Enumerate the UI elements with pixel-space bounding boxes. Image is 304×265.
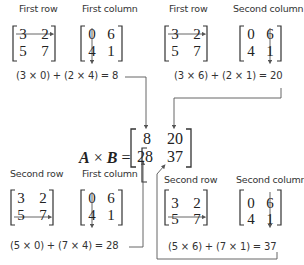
result-label: A × B =	[79, 149, 130, 167]
matrix-a-cell: 3	[14, 191, 28, 206]
result-cell: 8	[136, 131, 158, 147]
matrix-a-cell: 3	[168, 196, 182, 211]
matrix-b-cell: 6	[104, 191, 118, 206]
row-label: Second row	[10, 168, 63, 179]
matrix-a-cell: 5	[14, 208, 28, 223]
matrix-a-cell: 7	[38, 44, 52, 59]
matrix-b-cell: 1	[263, 212, 277, 227]
matrix-b-cell: 6	[263, 27, 277, 42]
result-cell: 37	[164, 149, 186, 165]
equation: (3 × 0) + (2 × 4) = 8	[16, 70, 118, 81]
matrix-a-cell: 5	[16, 44, 30, 59]
equation: (5 × 0) + (7 × 4) = 28	[10, 240, 118, 251]
matrix-b-cell: 4	[85, 44, 99, 59]
matrix-a-cell: 2	[38, 27, 52, 42]
matrix-a-cell: 3	[168, 27, 182, 42]
result-cell: 28	[134, 149, 156, 165]
equation: (5 × 6) + (7 × 1) = 37	[168, 241, 276, 252]
matrix-b-cell: 0	[85, 191, 99, 206]
matrix-b-cell: 6	[104, 27, 118, 42]
matrix-multiplication-diagram: First row First column 3 2 5 7 0 6 4 1 (…	[0, 0, 304, 265]
matrix-a-cell: 7	[36, 208, 50, 223]
matrix-b-cell: 4	[85, 208, 99, 223]
matrix-b-cell: 4	[244, 44, 258, 59]
column-label: Second column	[236, 174, 304, 185]
row-label: Second row	[164, 174, 217, 185]
matrix-a-cell: 5	[168, 212, 182, 227]
column-label: First column	[82, 168, 138, 179]
matrix-a-cell: 3	[16, 27, 30, 42]
matrix-a-cell: 7	[190, 44, 204, 59]
column-label: First column	[82, 3, 138, 14]
matrix-a-cell: 2	[190, 27, 204, 42]
matrix-b-cell: 1	[104, 44, 118, 59]
matrix-b-cell: 1	[263, 44, 277, 59]
matrix-b-cell: 4	[244, 212, 258, 227]
row-label: First row	[19, 3, 58, 14]
matrix-b-cell: 0	[244, 27, 258, 42]
matrix-a-cell: 2	[190, 196, 204, 211]
matrix-a-cell: 2	[36, 191, 50, 206]
equals-symbol: =	[121, 149, 130, 166]
matrix-b-cell: 6	[263, 196, 277, 211]
matrix-b-cell: 0	[244, 196, 258, 211]
matrix-b-cell: 0	[85, 27, 99, 42]
matrix-b-cell: 1	[104, 208, 118, 223]
matrix-b-symbol: B	[107, 149, 118, 166]
equation: (3 × 6) + (2 × 1) = 20	[174, 70, 282, 81]
matrix-a-cell: 5	[168, 44, 182, 59]
matrix-a-symbol: A	[79, 149, 90, 166]
result-cell: 20	[164, 131, 186, 147]
column-label: Second column	[233, 3, 303, 14]
row-label: First row	[169, 3, 208, 14]
matrix-a-cell: 7	[190, 212, 204, 227]
times-symbol: ×	[94, 149, 103, 166]
